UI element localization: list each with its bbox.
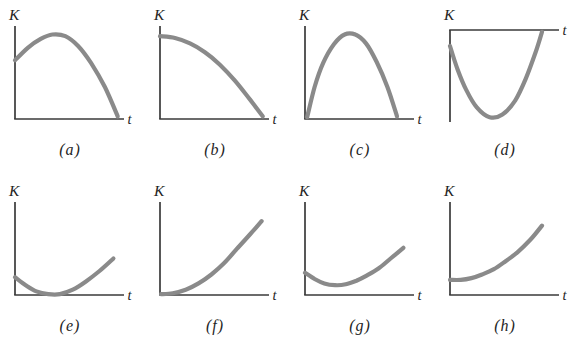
curve-f (161, 221, 262, 294)
plot-b: Kt (145, 6, 285, 140)
x-axis-label: t (128, 111, 133, 127)
y-axis-label: K (443, 6, 455, 23)
x-axis-label: t (563, 287, 568, 303)
x-axis-label: t (563, 22, 568, 38)
plot-f: Kt (145, 182, 285, 316)
panel-caption: (c) (290, 141, 430, 159)
panel-a: Kt(a) (0, 0, 145, 176)
curve-a (15, 34, 118, 116)
curve-b (160, 36, 263, 116)
figure-grid: Kt(a)Kt(b)Kt(c)Kt(d)Kt(e)Kt(f)Kt(g)Kt(h) (0, 0, 581, 353)
curve-d (450, 32, 542, 118)
x-axis-label: t (418, 287, 423, 303)
y-axis-label: K (443, 182, 455, 199)
plot-h: Kt (435, 182, 575, 316)
y-axis-label: K (153, 6, 165, 23)
y-axis-label: K (298, 182, 310, 199)
x-axis-label: t (273, 287, 278, 303)
panel-e: Kt(e) (0, 176, 145, 353)
y-axis-label: K (153, 182, 165, 199)
curve-g (305, 248, 403, 285)
panel-caption: (e) (0, 317, 140, 335)
x-axis-label: t (128, 287, 133, 303)
curve-c (307, 33, 397, 117)
plot-g: Kt (290, 182, 430, 316)
x-axis-label: t (418, 111, 423, 127)
curve-h (450, 226, 542, 280)
panel-g: Kt(g) (290, 176, 435, 353)
panel-caption: (f) (145, 317, 285, 335)
panel-h: Kt(h) (435, 176, 580, 353)
panel-caption: (a) (0, 141, 140, 159)
curve-e (15, 259, 113, 295)
x-axis-label: t (273, 111, 278, 127)
plot-d: Kt (435, 6, 575, 140)
plot-e: Kt (0, 182, 140, 316)
plot-c: Kt (290, 6, 430, 140)
y-axis-label: K (8, 182, 20, 199)
plot-a: Kt (0, 6, 140, 140)
panel-d: Kt(d) (435, 0, 580, 176)
panel-caption: (d) (435, 141, 575, 159)
panel-b: Kt(b) (145, 0, 290, 176)
panel-caption: (b) (145, 141, 285, 159)
y-axis-label: K (298, 6, 310, 23)
panel-f: Kt(f) (145, 176, 290, 353)
panel-caption: (h) (435, 317, 575, 335)
panel-caption: (g) (290, 317, 430, 335)
panel-c: Kt(c) (290, 0, 435, 176)
y-axis-label: K (8, 6, 20, 23)
